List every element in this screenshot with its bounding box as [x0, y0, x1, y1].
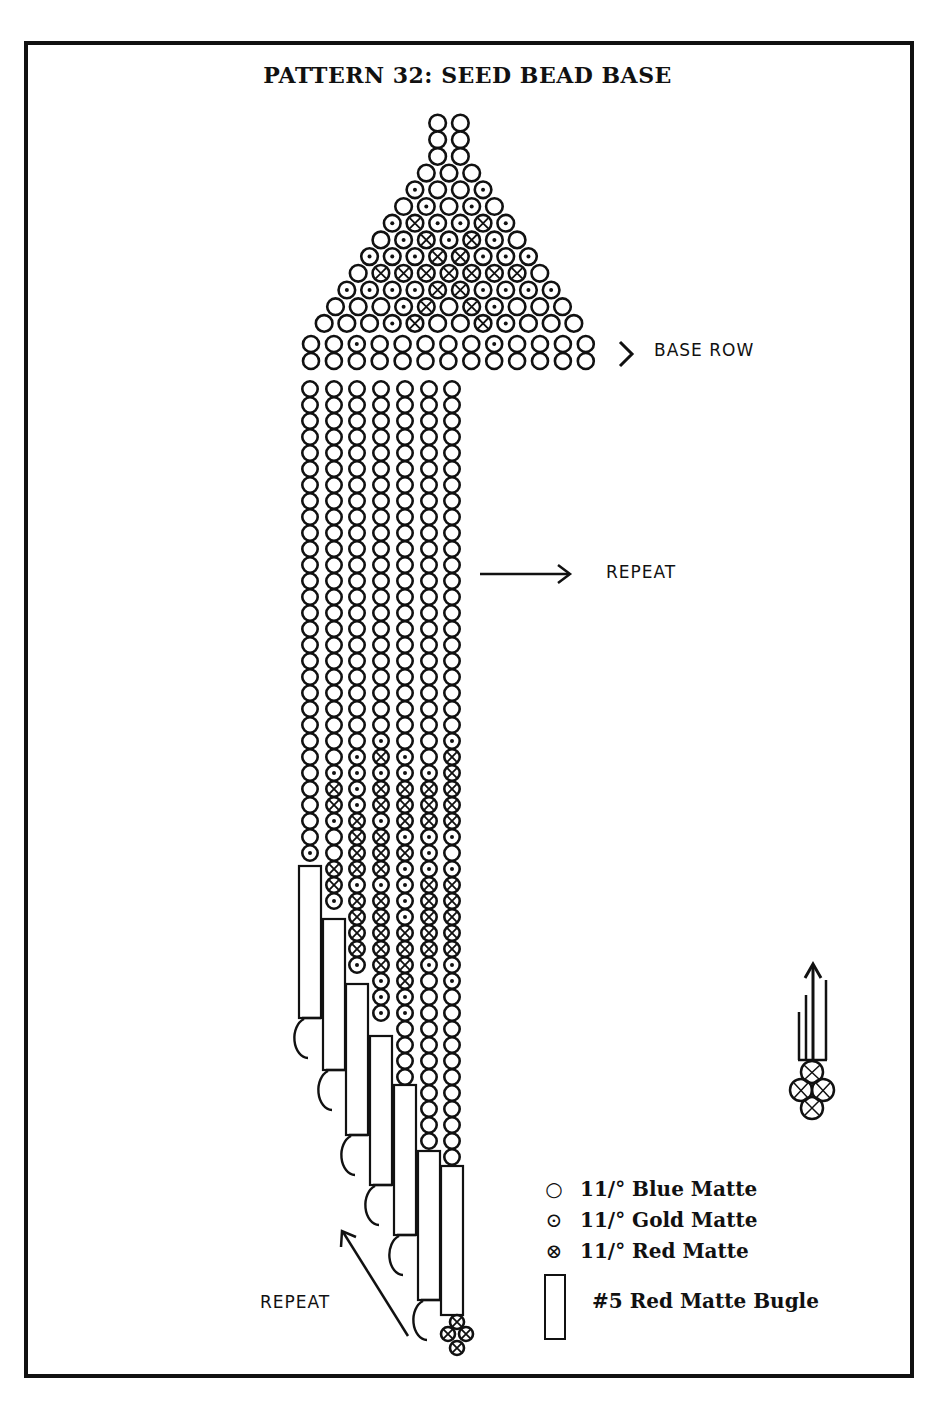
blue-bead-icon: [302, 413, 317, 428]
legend-bugle-icon: [545, 1275, 565, 1339]
blue-bead-icon: [373, 381, 388, 396]
blue-bead-icon: [566, 315, 583, 332]
blue-bead-icon: [444, 1133, 459, 1148]
blue-bead-icon: [421, 989, 436, 1004]
blue-bead-icon: [421, 573, 436, 588]
blue-bead-icon: [326, 605, 341, 620]
blue-bead-icon: [349, 477, 364, 492]
blue-bead-icon: [373, 621, 388, 636]
base-row-bracket-icon: [620, 342, 632, 366]
blue-bead-icon: [444, 477, 459, 492]
blue-bead-icon: [429, 182, 446, 199]
blue-bead-icon: [326, 845, 341, 860]
blue-bead-icon: [373, 669, 388, 684]
blue-bead-icon: [397, 413, 412, 428]
blue-bead-icon: [444, 461, 459, 476]
blue-bead-icon: [326, 397, 341, 412]
blue-bead-icon: [421, 701, 436, 716]
blue-bead-icon: [421, 1101, 436, 1116]
legend-item-bugle: #5 Red Matte Bugle: [592, 1289, 819, 1313]
blue-bead-icon: [532, 265, 549, 282]
legend-label: 11/° Red Matte: [580, 1239, 749, 1263]
blue-bead-icon: [326, 717, 341, 732]
blue-bead-icon: [397, 525, 412, 540]
legend-label: 11/° Gold Matte: [580, 1208, 757, 1232]
blue-bead-icon: [543, 315, 560, 332]
blue-bead-icon: [397, 541, 412, 556]
blue-bead-icon: [509, 232, 526, 249]
blue-bead-icon: [302, 445, 317, 460]
blue-bead-icon: [421, 413, 436, 428]
blue-bead-icon: [397, 653, 412, 668]
blue-bead-icon: [532, 353, 548, 369]
blue-bead-icon: [302, 637, 317, 652]
legend-item-gold: ⊙ 11/° Gold Matte: [540, 1208, 757, 1232]
blue-bead-icon: [421, 1053, 436, 1068]
blue-bead-icon: [302, 573, 317, 588]
blue-bead-icon: [302, 781, 317, 796]
blue-bead-icon: [326, 509, 341, 524]
blue-bead-icon: [486, 198, 503, 215]
thread-loop-icon: [318, 1070, 345, 1110]
blue-bead-icon: [373, 413, 388, 428]
blue-bead-icon: [421, 525, 436, 540]
blue-bead-icon: [349, 509, 364, 524]
blue-bead-icon: [326, 353, 342, 369]
blue-bead-icon: [373, 701, 388, 716]
blue-bead-icon: [532, 298, 549, 315]
base-row-label: BASE ROW: [654, 340, 754, 360]
blue-bead-icon: [302, 749, 317, 764]
legend-label: #5 Red Matte Bugle: [592, 1289, 819, 1313]
blue-bead-icon: [373, 589, 388, 604]
blue-bead-icon: [349, 573, 364, 588]
blue-bead-icon: [444, 541, 459, 556]
blue-bead-icon: [373, 717, 388, 732]
blue-bead-icon: [463, 336, 479, 352]
blue-bead-icon: [350, 265, 367, 282]
blue-bead-icon: [349, 413, 364, 428]
blue-bead-icon: [444, 1037, 459, 1052]
blue-bead-icon: [349, 589, 364, 604]
blue-bead-icon: [326, 653, 341, 668]
blue-bead-icon: [440, 336, 456, 352]
blue-bead-icon: [326, 429, 341, 444]
blue-bead-icon: [509, 298, 526, 315]
bugle-bead-icon: [299, 866, 321, 1018]
blue-bead-icon: [421, 717, 436, 732]
blue-bead-icon: [421, 381, 436, 396]
blue-bead-icon: [372, 336, 388, 352]
blue-bead-icon: [441, 165, 458, 182]
blue-bead-icon: [302, 701, 317, 716]
bugle-bead-icon: [370, 1036, 392, 1185]
thread-loop-icon: [413, 1300, 440, 1340]
blue-bead-icon: [444, 413, 459, 428]
repeat-arrow-right-icon: [480, 565, 570, 583]
gold-bead-icon: ⊙: [540, 1208, 568, 1232]
blue-bead-icon: [421, 733, 436, 748]
blue-bead-icon: ○: [540, 1177, 568, 1201]
blue-bead-icon: [509, 353, 525, 369]
thread-loop-icon: [365, 1185, 392, 1225]
blue-bead-icon: [444, 557, 459, 572]
blue-bead-icon: [302, 765, 317, 780]
blue-bead-icon: [302, 525, 317, 540]
blue-bead-icon: [421, 749, 436, 764]
blue-bead-icon: [444, 509, 459, 524]
blue-bead-icon: [349, 701, 364, 716]
blue-bead-icon: [316, 315, 333, 332]
blue-bead-icon: [349, 353, 365, 369]
blue-bead-icon: [421, 637, 436, 652]
blue-bead-icon: [421, 541, 436, 556]
blue-bead-icon: [429, 148, 446, 165]
blue-bead-icon: [302, 685, 317, 700]
blue-bead-icon: [302, 621, 317, 636]
blue-bead-icon: [349, 733, 364, 748]
blue-bead-icon: [397, 685, 412, 700]
blue-bead-icon: [326, 621, 341, 636]
blue-bead-icon: [418, 353, 434, 369]
blue-bead-icon: [444, 525, 459, 540]
blue-bead-icon: [421, 429, 436, 444]
blue-bead-icon: [532, 336, 548, 352]
blue-bead-icon: [326, 541, 341, 556]
bugle-bead-icon: [346, 984, 368, 1135]
